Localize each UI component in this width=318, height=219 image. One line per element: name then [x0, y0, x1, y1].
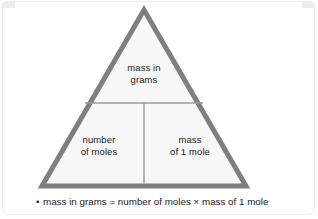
formula-notes: • mass in grams = number of moles × mass…: [36, 196, 316, 208]
mole-triangle-diagram: mass in grams number of moles mass of 1 …: [0, 0, 318, 195]
bullet-icon: •: [36, 196, 43, 208]
formula-line: • mass in grams = number of moles × mass…: [36, 196, 316, 208]
formula-text: mass in grams = number of moles × mass o…: [43, 196, 268, 208]
triangle-cell-bottom-right: mass of 1 mole: [152, 134, 228, 157]
triangle-cell-bottom-left: number of moles: [61, 134, 137, 157]
triangle-cell-top: mass in grams: [104, 62, 184, 85]
page-root: mass in grams number of moles mass of 1 …: [0, 0, 318, 219]
